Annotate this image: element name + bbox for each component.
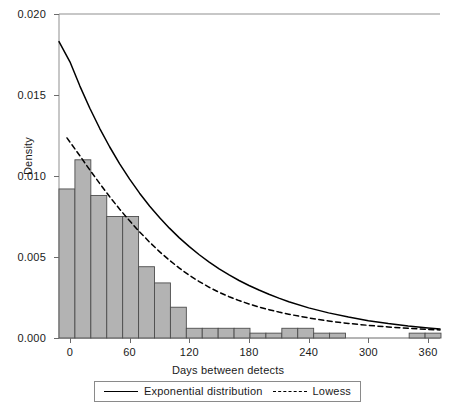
x-tick-label: 60 (110, 346, 150, 358)
histogram-bar (282, 328, 298, 338)
x-tick-label: 360 (408, 346, 448, 358)
y-tick-label: 0.005 (0, 251, 46, 263)
y-tick-mark (54, 176, 59, 177)
x-tick-mark (368, 338, 369, 343)
histogram-bar (218, 328, 234, 338)
x-tick-mark (309, 338, 310, 343)
y-tick-mark (54, 338, 59, 339)
histogram-bar (409, 333, 425, 338)
histogram-bar (250, 333, 266, 338)
histogram-bar (59, 189, 75, 338)
x-tick-mark (249, 338, 250, 343)
x-tick-label: 300 (348, 346, 388, 358)
histogram-bar (154, 283, 170, 338)
legend-label-exponential-distribution: Exponential distribution (144, 385, 263, 397)
chart-canvas (0, 0, 456, 403)
legend-label-lowess: Lowess (313, 385, 352, 397)
chart-legend: Exponential distribution Lowess (94, 381, 361, 402)
x-tick-mark (189, 338, 190, 343)
x-axis-label: Days between detects (0, 364, 456, 376)
y-tick-mark (54, 14, 59, 15)
histogram-bar (75, 160, 91, 338)
y-tick-label: 0.015 (0, 89, 46, 101)
x-tick-mark (70, 338, 71, 343)
histogram-bar (107, 217, 123, 339)
x-tick-mark (130, 338, 131, 343)
histogram-bar (330, 333, 346, 338)
histogram-bar (123, 217, 139, 339)
y-tick-label: 0.020 (0, 8, 46, 20)
histogram-bar (170, 307, 186, 338)
histogram-bar (234, 328, 250, 338)
legend-item-exponential-distribution: Exponential distribution (104, 385, 263, 397)
histogram-bar (186, 328, 202, 338)
histogram-bar (139, 267, 155, 338)
x-tick-mark (428, 338, 429, 343)
x-tick-label: 120 (169, 346, 209, 358)
legend-item-lowess: Lowess (273, 385, 352, 397)
histogram-bar (202, 328, 218, 338)
y-tick-label: 0.000 (0, 332, 46, 344)
histogram-bar (314, 333, 330, 338)
legend-swatch-dashed-line-icon (273, 391, 307, 392)
histogram-bar (266, 333, 282, 338)
histogram-bar (298, 328, 314, 338)
x-tick-label: 180 (229, 346, 269, 358)
y-axis-label: Density (22, 116, 34, 196)
x-tick-label: 0 (50, 346, 90, 358)
x-tick-label: 240 (289, 346, 329, 358)
histogram-bar (91, 195, 107, 338)
y-tick-label: 0.010 (0, 170, 46, 182)
legend-swatch-solid-line-icon (104, 391, 138, 392)
chart-figure: Density Days between detects 0.0000.0050… (0, 0, 456, 403)
y-tick-mark (54, 257, 59, 258)
y-tick-mark (54, 95, 59, 96)
